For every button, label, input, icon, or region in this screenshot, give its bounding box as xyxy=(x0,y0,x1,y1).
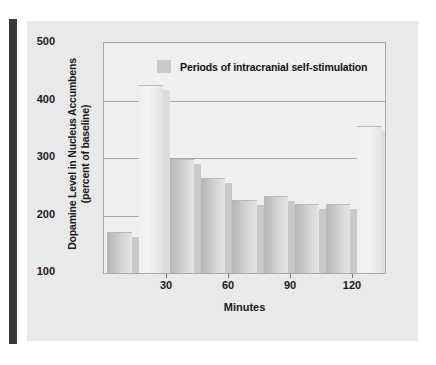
bar-0-15 xyxy=(107,232,131,273)
bar-face xyxy=(232,200,256,273)
ytick-label-100: 100 xyxy=(21,265,55,277)
ytick-label-400: 400 xyxy=(21,93,55,105)
xtick-label-120: 120 xyxy=(332,279,372,291)
bar-90-105 xyxy=(295,204,319,273)
x-axis-title: Minutes xyxy=(103,301,386,313)
ytick-label-200: 200 xyxy=(21,208,55,220)
bar-face xyxy=(326,204,350,273)
figure-panel: Dopamine Level in Nucleus Accumbens (per… xyxy=(27,21,418,341)
ytick-label-500: 500 xyxy=(21,35,55,47)
y-axis-title: Dopamine Level in Nucleus Accumbens (per… xyxy=(66,39,92,269)
bar-face xyxy=(264,196,288,273)
bar-face xyxy=(357,126,381,273)
xtick-30 xyxy=(166,274,167,278)
ytick-label-300: 300 xyxy=(21,150,55,162)
legend-swatch xyxy=(157,60,171,73)
left-margin-rule xyxy=(9,19,17,344)
xtick-label-30: 30 xyxy=(146,279,186,291)
bar-30-45 xyxy=(170,159,194,273)
bar-face xyxy=(170,159,194,273)
xtick-120 xyxy=(352,274,353,278)
y-axis-title-line1: Dopamine Level in Nucleus Accumbens xyxy=(66,39,79,269)
bar-45-60 xyxy=(201,178,225,273)
bar-face xyxy=(107,232,131,273)
bar-60-75 xyxy=(232,200,256,273)
bar-120-135 xyxy=(357,126,381,273)
bar-75-90 xyxy=(264,196,288,273)
bar-side-face xyxy=(382,131,385,273)
chart-legend: Periods of intracranial self-stimulation xyxy=(157,60,367,73)
bar-face xyxy=(201,178,225,273)
xtick-90 xyxy=(290,274,291,278)
gridline-100 xyxy=(104,273,385,274)
xtick-label-60: 60 xyxy=(208,279,248,291)
bar-face xyxy=(295,204,319,273)
y-axis-title-line2: (percent of baseline) xyxy=(79,39,92,269)
bars-layer xyxy=(104,43,385,273)
xtick-label-90: 90 xyxy=(270,279,310,291)
bar-105-120 xyxy=(326,204,350,273)
xtick-60 xyxy=(228,274,229,278)
bar-15-30 xyxy=(139,85,163,273)
legend-label: Periods of intracranial self-stimulation xyxy=(180,61,367,73)
bar-face xyxy=(139,85,163,273)
